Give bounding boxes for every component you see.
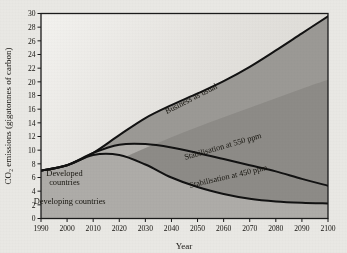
x-tick-label: 1990 <box>33 224 48 233</box>
x-tick-label: 2030 <box>138 224 153 233</box>
x-tick-label: 2090 <box>294 224 309 233</box>
y-tick-label: 18 <box>28 91 36 100</box>
y-tick-label: 26 <box>28 37 36 46</box>
annotation-developed-countries: Developedcountries <box>46 169 83 187</box>
y-tick-label: 8 <box>32 160 36 169</box>
y-tick-label: 6 <box>32 173 36 182</box>
y-tick-label: 24 <box>28 50 36 59</box>
y-tick-label: 4 <box>32 187 36 196</box>
y-tick-label: 14 <box>28 119 36 128</box>
x-tick-label: 2020 <box>112 224 127 233</box>
x-tick-label: 2050 <box>190 224 205 233</box>
x-axis-title: Year <box>176 241 193 251</box>
x-tick-label: 2080 <box>268 224 283 233</box>
y-tick-label: 22 <box>28 64 36 73</box>
co2-emissions-chart: 024681012141618202224262830 199020002010… <box>0 0 347 253</box>
x-tick-label: 2010 <box>86 224 101 233</box>
y-tick-label: 10 <box>28 146 36 155</box>
y-tick-label: 0 <box>32 214 36 223</box>
x-tick-label: 2040 <box>164 224 179 233</box>
annotation-developing-countries: Developing countries <box>34 197 106 206</box>
x-tick-label: 2000 <box>59 224 74 233</box>
x-tick-label: 2060 <box>216 224 231 233</box>
y-tick-label: 20 <box>28 78 36 87</box>
y-axis-title: CO₂ emissions (gigatonnes of carbon) <box>3 47 13 184</box>
y-tick-label: 12 <box>28 132 36 141</box>
x-tick-label: 2070 <box>242 224 257 233</box>
y-tick-label: 30 <box>28 9 36 18</box>
y-tick-label: 28 <box>28 23 36 32</box>
plot-area <box>41 14 328 219</box>
x-tick-label: 2100 <box>320 224 335 233</box>
y-tick-label: 16 <box>28 105 36 114</box>
